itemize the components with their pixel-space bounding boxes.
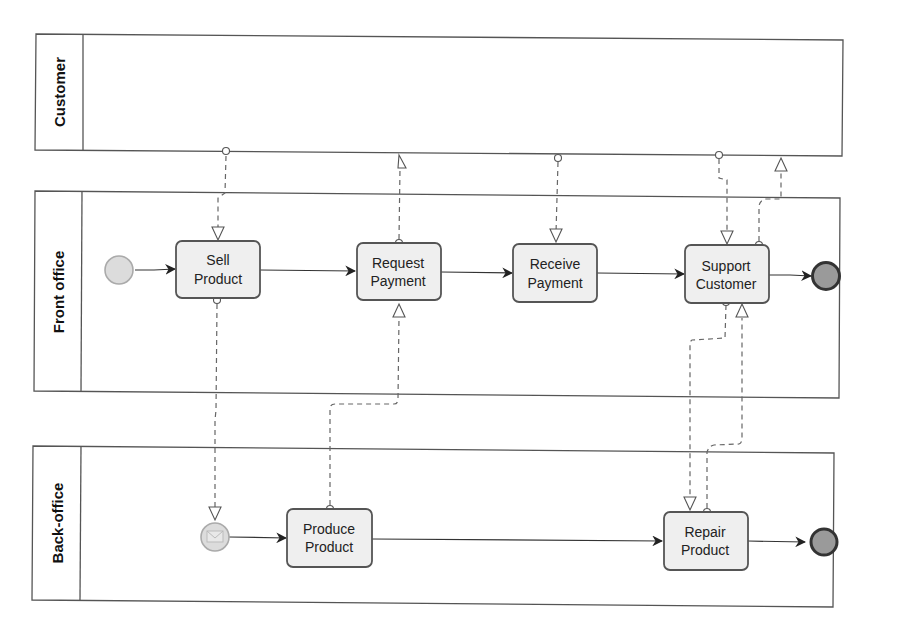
lane-label-customer: Customer (51, 57, 68, 127)
task-repair-product[interactable]: Repair Product (664, 512, 748, 570)
message-arrow-icon (775, 158, 787, 171)
message-arrow-icon (398, 155, 406, 168)
front-office-start-event[interactable] (105, 256, 133, 284)
task-label-line1: Request (372, 255, 424, 271)
front-office-end-event[interactable] (813, 263, 840, 290)
task-produce-product[interactable]: Produce Product (287, 509, 372, 567)
task-label-line1: Repair (684, 524, 726, 540)
lane-label-back-office: Back-office (49, 483, 66, 564)
task-label-line2: Payment (527, 275, 582, 291)
message-origin-icon (555, 155, 562, 162)
task-label-line2: Product (305, 539, 353, 555)
task-label-line1: Sell (206, 252, 229, 268)
task-label-line1: Receive (530, 256, 581, 272)
task-label-line2: Product (681, 542, 729, 558)
message-origin-icon (716, 152, 723, 159)
task-label-line1: Produce (303, 521, 355, 537)
message-origin-icon (223, 148, 230, 155)
task-request-payment[interactable]: Request Payment (357, 243, 441, 300)
bpmn-diagram: Customer Front office Back-office (0, 0, 900, 629)
lane-customer[interactable]: Customer (35, 34, 843, 156)
task-sell-product[interactable]: Sell Product (176, 241, 260, 298)
lane-label-front-office: Front office (50, 251, 67, 334)
task-support-customer[interactable]: Support Customer (685, 245, 769, 303)
task-label-line2: Payment (370, 273, 425, 289)
task-label-line1: Support (701, 258, 750, 274)
back-office-message-start-event[interactable] (201, 523, 229, 551)
back-office-end-event[interactable] (811, 529, 837, 555)
task-label-line2: Product (194, 271, 242, 287)
task-label-line2: Customer (696, 276, 757, 292)
envelope-icon (207, 531, 223, 542)
task-receive-payment[interactable]: Receive Payment (513, 244, 597, 302)
